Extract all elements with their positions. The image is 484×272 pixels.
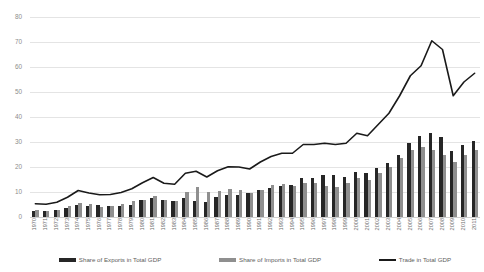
bar-imports bbox=[357, 178, 360, 217]
x-axis-tick: 1980 bbox=[137, 217, 148, 247]
x-axis-tick: 1983 bbox=[169, 217, 180, 247]
x-axis-tick-label: 1986 bbox=[204, 218, 210, 230]
legend-item[interactable]: Share of Imports in Total GDP bbox=[219, 257, 321, 263]
x-axis-tick-label: 1994 bbox=[290, 218, 296, 230]
bar-imports bbox=[153, 196, 156, 217]
x-axis-tick: 1988 bbox=[223, 217, 234, 247]
x-axis-tick-label: 2004 bbox=[397, 218, 403, 230]
x-axis-tick: 2010 bbox=[459, 217, 470, 247]
x-axis-tick: 1990 bbox=[244, 217, 255, 247]
bar-imports bbox=[325, 186, 328, 217]
x-axis-tick-label: 2010 bbox=[461, 218, 467, 230]
y-axis-tick-label: 30 bbox=[0, 139, 22, 145]
x-axis-tick: 1973 bbox=[62, 217, 73, 247]
bar-group bbox=[394, 17, 405, 217]
bar-group bbox=[159, 17, 170, 217]
x-axis-tick-label: 1984 bbox=[183, 218, 189, 230]
x-axis-tick-label: 1995 bbox=[301, 218, 307, 230]
x-axis-tick-label: 2003 bbox=[386, 218, 392, 230]
x-axis-tick: 1981 bbox=[148, 217, 159, 247]
x-axis-tick: 1986 bbox=[202, 217, 213, 247]
bar-imports bbox=[282, 184, 285, 217]
x-axis-tick-label: 1990 bbox=[247, 218, 253, 230]
x-axis-tick-label: 1998 bbox=[333, 218, 339, 230]
x-axis: 1970197119721973197419751976197719781979… bbox=[30, 217, 480, 247]
y-axis-tick-label: 0 bbox=[0, 214, 22, 220]
bar-imports bbox=[464, 155, 467, 218]
bar-group bbox=[287, 17, 298, 217]
x-axis-tick-label: 1970 bbox=[33, 218, 39, 230]
bar-imports bbox=[368, 180, 371, 218]
x-axis-tick-label: 1982 bbox=[161, 218, 167, 230]
x-axis-tick: 1970 bbox=[30, 217, 41, 247]
bar-imports bbox=[314, 183, 317, 217]
x-axis-tick: 2007 bbox=[427, 217, 438, 247]
x-axis-tick-label: 1978 bbox=[118, 218, 124, 230]
x-axis-tick-label: 1979 bbox=[129, 218, 135, 230]
x-axis-tick-label: 1977 bbox=[108, 218, 114, 230]
legend-label: Share of Imports in Total GDP bbox=[239, 257, 321, 263]
x-axis-tick: 1987 bbox=[212, 217, 223, 247]
bar-group bbox=[148, 17, 159, 217]
x-axis-tick: 1976 bbox=[94, 217, 105, 247]
bar-imports bbox=[475, 150, 478, 218]
bar-imports bbox=[453, 162, 456, 217]
x-axis-tick: 2001 bbox=[362, 217, 373, 247]
legend-swatch-line-dark bbox=[379, 259, 396, 261]
x-axis-tick: 2011 bbox=[469, 217, 480, 247]
bar-group bbox=[202, 17, 213, 217]
x-axis-tick: 1971 bbox=[41, 217, 52, 247]
x-axis-tick: 1979 bbox=[126, 217, 137, 247]
bar-group bbox=[427, 17, 438, 217]
x-axis-tick: 1982 bbox=[159, 217, 170, 247]
bar-imports bbox=[89, 204, 92, 217]
bar-group bbox=[352, 17, 363, 217]
x-axis-tick-label: 1999 bbox=[343, 218, 349, 230]
bar-imports bbox=[110, 206, 113, 217]
bar-imports bbox=[432, 150, 435, 218]
x-axis-tick-label: 1992 bbox=[268, 218, 274, 230]
x-axis-tick: 1989 bbox=[234, 217, 245, 247]
x-axis-tick: 1974 bbox=[73, 217, 84, 247]
x-axis-tick-label: 1976 bbox=[97, 218, 103, 230]
y-axis-tick-label: 80 bbox=[0, 14, 22, 20]
bar-imports bbox=[78, 203, 81, 217]
legend-item[interactable]: Share of Exports in Total GDP bbox=[59, 257, 161, 263]
y-axis-tick-label: 20 bbox=[0, 164, 22, 170]
x-axis-tick-label: 1981 bbox=[150, 218, 156, 230]
y-axis-tick-label: 10 bbox=[0, 189, 22, 195]
bar-group bbox=[448, 17, 459, 217]
x-axis-tick: 1972 bbox=[51, 217, 62, 247]
x-axis-tick-label: 2006 bbox=[418, 218, 424, 230]
chart-container: 01020304050607080 1970197119721973197419… bbox=[0, 0, 484, 272]
bar-group bbox=[459, 17, 470, 217]
bar-group bbox=[191, 17, 202, 217]
bar-group bbox=[469, 17, 480, 217]
bar-imports bbox=[68, 206, 71, 217]
x-axis-tick-label: 1989 bbox=[236, 218, 242, 230]
x-axis-tick: 2006 bbox=[416, 217, 427, 247]
x-axis-tick: 1998 bbox=[330, 217, 341, 247]
bar-group bbox=[62, 17, 73, 217]
bar-imports bbox=[250, 193, 253, 217]
bar-group bbox=[309, 17, 320, 217]
x-axis-tick-label: 1971 bbox=[43, 218, 49, 230]
x-axis-tick: 1993 bbox=[277, 217, 288, 247]
y-axis-tick-label: 50 bbox=[0, 89, 22, 95]
bar-imports bbox=[57, 210, 60, 217]
bar-imports bbox=[100, 207, 103, 218]
x-axis-tick-label: 2005 bbox=[408, 218, 414, 230]
bar-group bbox=[73, 17, 84, 217]
x-axis-tick-label: 1972 bbox=[54, 218, 60, 230]
bar-imports bbox=[175, 201, 178, 217]
x-axis-tick-label: 1991 bbox=[258, 218, 264, 230]
legend-item[interactable]: Trade in Total GDP bbox=[379, 257, 451, 263]
x-axis-tick: 1996 bbox=[309, 217, 320, 247]
bar-imports bbox=[228, 189, 231, 217]
x-axis-tick: 1991 bbox=[255, 217, 266, 247]
bar-group bbox=[362, 17, 373, 217]
bar-group bbox=[384, 17, 395, 217]
bar-imports bbox=[389, 167, 392, 217]
bar-group bbox=[298, 17, 309, 217]
x-axis-tick: 1995 bbox=[298, 217, 309, 247]
